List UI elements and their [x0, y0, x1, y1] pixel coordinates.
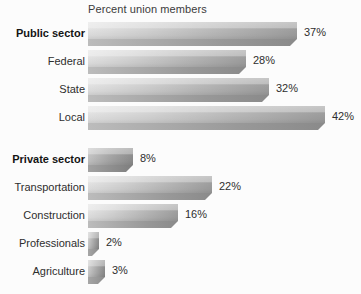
bar-face: [88, 106, 325, 123]
bar-row: Transportation22%: [0, 176, 361, 200]
bar-row: Federal28%: [0, 50, 361, 74]
bar-category-label: Transportation: [0, 181, 85, 193]
bar-value-label: 3%: [112, 264, 128, 276]
bar-row: Agriculture3%: [0, 260, 361, 284]
bar-shadow: [88, 165, 133, 172]
bar-value-label: 28%: [253, 54, 275, 66]
bar-category-label: Local: [0, 111, 85, 123]
bar-shadow: [88, 277, 105, 284]
bar-value-label: 32%: [276, 82, 298, 94]
bar-category-label: Professionals: [0, 237, 85, 249]
bar-category-label: Public sector: [0, 27, 85, 39]
bar: [88, 50, 246, 74]
bar: [88, 232, 99, 256]
bar-row: Public sector37%: [0, 22, 361, 46]
bar: [88, 204, 178, 228]
bar-row: Professionals2%: [0, 232, 361, 256]
bar-category-label: State: [0, 83, 85, 95]
bar: [88, 260, 105, 284]
bar-value-label: 8%: [140, 152, 156, 164]
bar: [88, 106, 325, 130]
chart-title: Percent union members: [88, 3, 207, 15]
bar-value-label: 42%: [332, 110, 354, 122]
bar-category-label: Federal: [0, 55, 85, 67]
bar-face: [88, 204, 178, 221]
bar-shadow: [88, 39, 297, 46]
bar-face: [88, 78, 269, 95]
bar-value-label: 22%: [219, 180, 241, 192]
bar: [88, 148, 133, 172]
plot-area: Public sector37%Federal28%State32%Local4…: [0, 22, 361, 294]
bar-face: [88, 176, 212, 193]
bar-shadow: [88, 123, 325, 130]
bar-shadow: [88, 67, 246, 74]
bar-shadow: [88, 95, 269, 102]
bar-face: [88, 50, 246, 67]
bar: [88, 22, 297, 46]
bar-face: [88, 148, 133, 165]
bar-face: [88, 232, 99, 249]
bar-category-label: Agriculture: [0, 265, 85, 277]
bar-value-label: 37%: [304, 26, 326, 38]
union-membership-bar-chart: Percent union members Public sector37%Fe…: [0, 0, 361, 294]
bar-shadow: [88, 221, 178, 228]
bar-value-label: 2%: [106, 236, 122, 248]
bar-row: Local42%: [0, 106, 361, 130]
bar-row: State32%: [0, 78, 361, 102]
bar-category-label: Construction: [0, 209, 85, 221]
bar-face: [88, 22, 297, 39]
bar-value-label: 16%: [185, 208, 207, 220]
bar: [88, 78, 269, 102]
bar-category-label: Private sector: [0, 153, 85, 165]
bar-row: Construction16%: [0, 204, 361, 228]
bar-row: Private sector8%: [0, 148, 361, 172]
bar-shadow: [88, 193, 212, 200]
bar-face: [88, 260, 105, 277]
bar: [88, 176, 212, 200]
bar-shadow: [88, 249, 99, 256]
